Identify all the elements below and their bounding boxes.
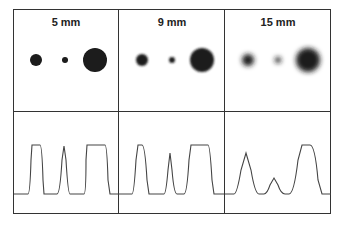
profile-curve	[119, 145, 224, 194]
dot	[83, 48, 107, 72]
profile-curve	[225, 145, 331, 194]
dot	[30, 54, 42, 66]
profile-curve	[14, 145, 119, 194]
dot	[242, 54, 254, 66]
dot	[275, 57, 281, 63]
dot	[190, 48, 214, 72]
dot	[136, 54, 148, 66]
dot	[296, 48, 320, 72]
blur-diagram	[0, 0, 340, 225]
dot-images	[30, 48, 320, 72]
intensity-profiles	[14, 145, 331, 194]
dot	[62, 57, 68, 63]
dot	[169, 57, 175, 63]
